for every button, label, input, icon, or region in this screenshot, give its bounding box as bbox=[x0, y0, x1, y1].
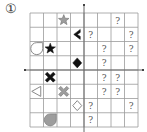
diamond-icon bbox=[73, 58, 82, 68]
teardrop-icon bbox=[31, 43, 43, 55]
cross-icon bbox=[45, 72, 55, 82]
cross-icon bbox=[59, 86, 69, 96]
unknown-cell-mark: ? bbox=[102, 87, 107, 97]
x-axis-end-dot bbox=[142, 69, 144, 71]
star-icon bbox=[59, 15, 69, 25]
star-icon bbox=[45, 43, 55, 53]
unknown-cell-mark: ? bbox=[129, 101, 134, 111]
unknown-cell-mark: ? bbox=[88, 115, 93, 125]
triangle-left-icon bbox=[32, 86, 41, 96]
unknown-cell-mark: ? bbox=[115, 16, 120, 26]
unknown-cell-mark: ? bbox=[129, 30, 134, 40]
symmetry-grid-puzzle: ????????????? bbox=[0, 0, 147, 132]
chevron-left-icon bbox=[74, 29, 81, 39]
unknown-cell-mark: ? bbox=[129, 44, 134, 54]
unknown-cell-mark: ? bbox=[88, 101, 93, 111]
y-axis-end-dot bbox=[83, 4, 85, 6]
diamond-icon bbox=[73, 101, 82, 111]
unknown-cell-mark: ? bbox=[102, 44, 107, 54]
teardrop-icon bbox=[44, 114, 56, 126]
unknown-cell-mark: ? bbox=[115, 73, 120, 83]
x-axis-start-dot bbox=[24, 69, 26, 71]
unknown-cell-mark: ? bbox=[102, 73, 107, 83]
unknown-cell-mark: ? bbox=[115, 87, 120, 97]
unknown-cell-mark: ? bbox=[88, 30, 93, 40]
unknown-cell-mark: ? bbox=[102, 58, 107, 68]
